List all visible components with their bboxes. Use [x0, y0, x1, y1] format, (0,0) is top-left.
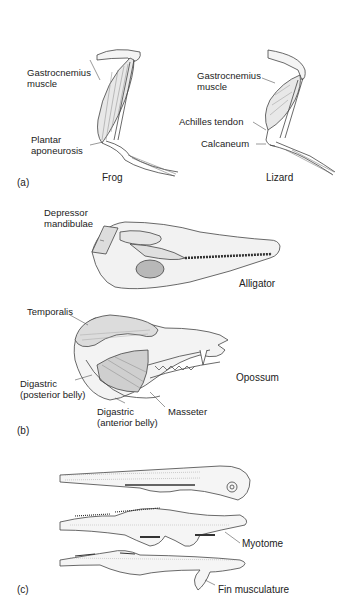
label-frog-gastrocnemius: Gastrocnemius muscle [27, 67, 91, 89]
fish-embryo-top-illustration [60, 466, 250, 500]
label-frog: Frog [102, 172, 123, 183]
label-line: Gastrocnemius [27, 67, 91, 78]
label-line: muscle [27, 78, 91, 89]
label-line: aponeurosis [31, 145, 83, 156]
label-line: Gastrocnemius [197, 70, 261, 81]
fish-embryo-middle-illustration [60, 508, 247, 546]
frog-leg-illustration [90, 50, 178, 176]
label-line: Digastric [20, 378, 85, 389]
label-masseter: Masseter [168, 406, 207, 417]
diagram-artwork [0, 0, 343, 599]
label-line: (anterior belly) [97, 417, 158, 428]
label-digastric-posterior: Digastric (posterior belly) [20, 378, 85, 400]
label-lizard-calcaneum: Calcaneum [201, 138, 249, 149]
label-line: Digastric [97, 406, 158, 417]
label-temporalis: Temporalis [27, 306, 73, 317]
label-line: (posterior belly) [20, 389, 85, 400]
label-line: Plantar [31, 134, 83, 145]
label-opossum: Opossum [236, 372, 279, 383]
panel-marker-b: (b) [17, 425, 29, 436]
label-alligator: Alligator [239, 278, 275, 289]
label-line: mandibulae [44, 218, 93, 229]
opossum-skull-illustration [70, 315, 228, 407]
label-myotome: Myotome [242, 538, 283, 549]
label-lizard: Lizard [266, 172, 293, 183]
label-fin-musculature: Fin musculature [218, 584, 289, 595]
label-frog-plantar-aponeurosis: Plantar aponeurosis [31, 134, 83, 156]
label-line: Depressor [44, 207, 93, 218]
lizard-leg-illustration [253, 50, 335, 175]
label-digastric-anterior: Digastric (anterior belly) [97, 406, 158, 428]
panel-marker-c: (c) [17, 584, 29, 595]
label-lizard-gastrocnemius: Gastrocnemius muscle [197, 70, 261, 92]
label-depressor-mandibulae: Depressor mandibulae [44, 207, 93, 229]
label-lizard-achilles-tendon: Achilles tendon [179, 116, 243, 127]
panel-marker-a: (a) [17, 177, 29, 188]
label-line: muscle [197, 81, 261, 92]
